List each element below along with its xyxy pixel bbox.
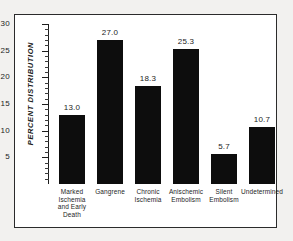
bar-value-label: 27.0 [89, 28, 131, 37]
bar[interactable] [211, 154, 237, 184]
y-tick-major [42, 131, 49, 132]
y-tick-label: 5 [0, 153, 10, 161]
y-tick-minor [45, 168, 49, 169]
y-tick-minor [45, 35, 49, 36]
y-tick-minor [45, 99, 49, 100]
y-tick-major [42, 157, 49, 158]
y-tick-major [42, 77, 49, 78]
bar-value-label: 5.7 [203, 142, 245, 151]
y-tick-label: 30 [0, 20, 10, 28]
y-tick-minor [45, 40, 49, 41]
y-tick-minor [45, 136, 49, 137]
plot-area: PERCENT DISTRIBUTION 30252015105 13.0Mar… [15, 15, 278, 229]
bar[interactable] [97, 40, 123, 184]
x-axis-category-label-line: Ischemia [46, 196, 98, 204]
y-tick-minor [45, 179, 49, 180]
y-tick-minor [45, 147, 49, 148]
y-axis-title: PERCENT DISTRIBUTION [26, 39, 35, 149]
bar[interactable] [59, 115, 85, 184]
y-tick-minor [45, 163, 49, 164]
y-tick-minor [45, 72, 49, 73]
y-tick-label: 10 [0, 127, 10, 135]
x-axis-category-label-line: and Early [46, 203, 98, 211]
y-tick-minor [45, 125, 49, 126]
y-tick-minor [45, 173, 49, 174]
bar[interactable] [135, 86, 161, 184]
y-tick-label: 15 [0, 100, 10, 108]
y-tick-minor [45, 56, 49, 57]
bar-value-label: 10.7 [241, 115, 283, 124]
y-tick-minor [45, 83, 49, 84]
y-tick-major [42, 104, 49, 105]
y-tick-label: 25 [0, 47, 10, 55]
bar-value-label: 13.0 [51, 103, 93, 112]
y-tick-minor [45, 109, 49, 110]
y-tick-minor [45, 88, 49, 89]
bar-value-label: 18.3 [127, 74, 169, 83]
x-axis-category-label-line: Undetermined [236, 188, 288, 196]
bar[interactable] [173, 49, 199, 184]
figure-container: PERCENT DISTRIBUTION 30252015105 13.0Mar… [0, 0, 293, 241]
y-tick-minor [45, 29, 49, 30]
x-axis-category-label-line: Embolism [198, 196, 250, 204]
y-tick-minor [45, 45, 49, 46]
y-tick-minor [45, 61, 49, 62]
bar[interactable] [249, 127, 275, 184]
y-tick-minor [45, 141, 49, 142]
bar-value-label: 25.3 [165, 37, 207, 46]
y-tick-minor [45, 152, 49, 153]
y-tick-minor [45, 67, 49, 68]
x-axis-category-label: Undetermined [236, 188, 288, 196]
y-tick-major [42, 24, 49, 25]
chart-frame: PERCENT DISTRIBUTION 30252015105 13.0Mar… [14, 14, 277, 228]
y-tick-minor [45, 93, 49, 94]
y-tick-label: 20 [0, 73, 10, 81]
y-tick-minor [45, 120, 49, 121]
x-axis-category-label-line: Death [46, 211, 98, 219]
y-tick-major [42, 51, 49, 52]
y-tick-minor [45, 115, 49, 116]
